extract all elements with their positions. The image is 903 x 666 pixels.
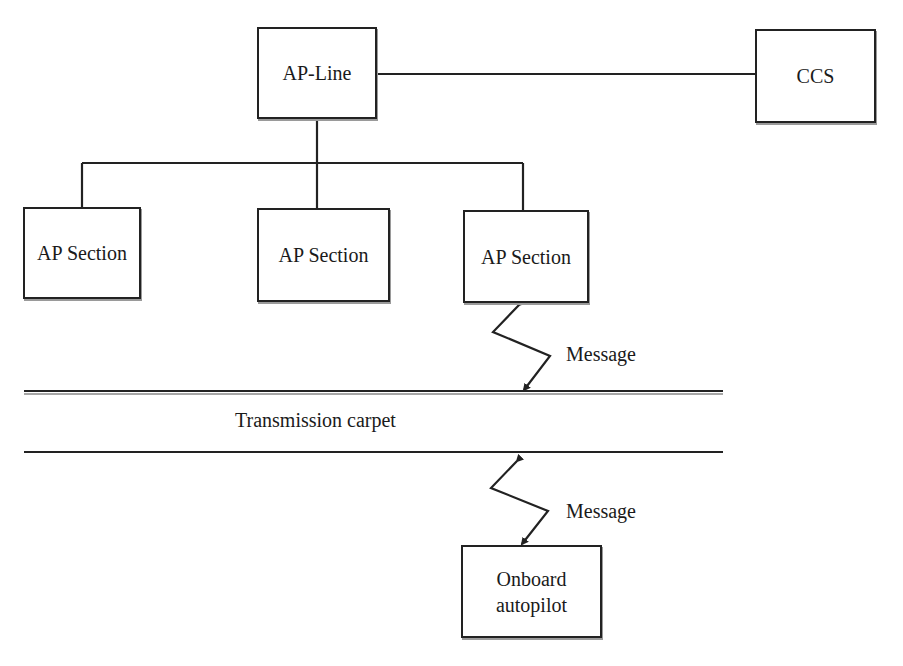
node-ap-line: AP-Line — [257, 27, 377, 119]
zigzag-arrow-upper-icon — [493, 305, 550, 390]
node-ap-section-1: AP Section — [23, 207, 141, 299]
node-ap-section-3-label: AP Section — [481, 244, 571, 270]
message-label-upper: Message — [566, 343, 636, 366]
transmission-carpet-label: Transmission carpet — [235, 409, 396, 432]
message-label-lower: Message — [566, 500, 636, 523]
node-onboard-autopilot-line1: Onboard — [497, 566, 567, 592]
node-ccs: CCS — [755, 29, 876, 123]
node-onboard-autopilot: Onboard autopilot — [461, 545, 602, 638]
zigzag-arrow-lower-icon — [491, 461, 548, 544]
node-ap-line-label: AP-Line — [283, 60, 352, 86]
node-onboard-autopilot-line2: autopilot — [496, 592, 567, 618]
node-ap-section-3: AP Section — [463, 210, 589, 303]
node-ap-section-1-label: AP Section — [37, 240, 127, 266]
node-ap-section-2-label: AP Section — [279, 242, 369, 268]
diagram-canvas: AP-Line CCS AP Section AP Section AP Sec… — [0, 0, 903, 666]
node-ccs-label: CCS — [797, 63, 835, 89]
node-ap-section-2: AP Section — [257, 208, 390, 302]
